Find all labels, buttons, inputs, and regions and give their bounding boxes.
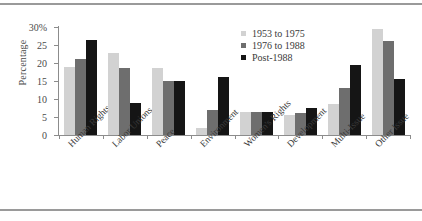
y-axis-tick-label: 30% (29, 22, 47, 33)
legend-item-label: 1976 to 1988 (252, 40, 305, 51)
legend-item: Post-1988 (241, 52, 305, 63)
bar (240, 112, 251, 135)
x-axis-tick (410, 135, 411, 139)
legend-item-label: Post-1988 (252, 52, 293, 63)
bar (383, 41, 394, 135)
bar (372, 29, 383, 135)
bar (64, 67, 75, 135)
legend-item-label: 1953 to 1975 (252, 28, 305, 39)
x-axis-tick (235, 135, 236, 139)
legend-swatch-icon (241, 55, 246, 60)
bar (328, 104, 339, 135)
plot-area: 30%2520151050Human RightsLabor UnionsPea… (59, 27, 410, 135)
y-axis-tick-label: 10 (37, 94, 47, 105)
legend-item: 1953 to 1975 (241, 28, 305, 39)
y-axis-tick-label: 15 (37, 76, 47, 87)
chart-legend: 1953 to 19751976 to 1988Post-1988 (241, 28, 305, 64)
bar-chart-figure: Percentage 30%2520151050Human RightsLabo… (0, 0, 422, 221)
bottom-divider-rule (0, 209, 422, 211)
x-axis-tick (147, 135, 148, 139)
legend-swatch-icon (241, 31, 246, 36)
x-axis-tick (278, 135, 279, 139)
x-axis-tick (191, 135, 192, 139)
x-axis-tick (322, 135, 323, 139)
bar (108, 53, 119, 135)
y-axis-title: Percentage (17, 15, 28, 111)
bar-group (147, 27, 191, 135)
y-axis-tick-label: 0 (42, 130, 47, 141)
y-axis-tick-label: 5 (42, 112, 47, 123)
x-axis-tick (103, 135, 104, 139)
x-axis-tick (366, 135, 367, 139)
x-axis-tick (59, 135, 60, 139)
bar (152, 68, 163, 135)
y-axis-tick-label: 25 (37, 40, 47, 51)
bar (174, 81, 185, 135)
y-axis-tick-label: 20 (37, 58, 47, 69)
top-divider-rule (0, 3, 422, 5)
legend-item: 1976 to 1988 (241, 40, 305, 51)
legend-swatch-icon (241, 43, 246, 48)
